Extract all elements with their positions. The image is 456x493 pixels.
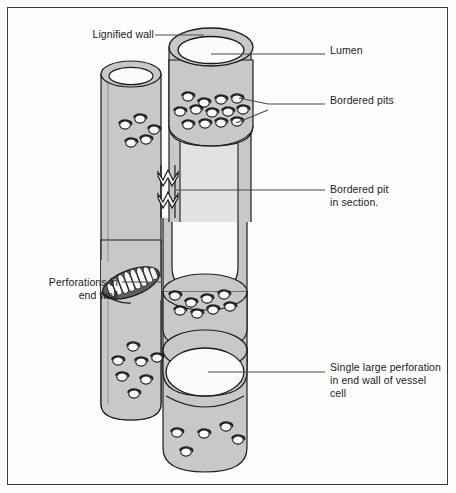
label-bordered-pits: Bordered pits xyxy=(330,94,440,107)
label-single-large-perforation: Single large perforation in end wall of … xyxy=(330,361,452,401)
figure-root: Lignified wallLumenBordered pitsBordered… xyxy=(0,0,456,493)
tracheid-left-lumen xyxy=(109,67,153,84)
xylem-vessel-diagram xyxy=(0,0,456,493)
label-bordered-pit-in-section: Bordered pit in section. xyxy=(330,183,445,209)
label-lignified-wall: Lignified wall xyxy=(70,28,154,41)
simple-perforation-plate xyxy=(163,330,247,396)
label-perforations-in-end-wall: Perforations in end wall xyxy=(14,276,118,302)
bordered-pit-in-section xyxy=(158,165,178,218)
label-lumen: Lumen xyxy=(330,44,440,57)
lumen-opening xyxy=(178,37,244,64)
